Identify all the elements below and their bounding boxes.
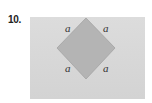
side-label-top-right: a xyxy=(103,23,109,34)
diamond-shape xyxy=(30,17,145,99)
side-label-top-left: a xyxy=(65,23,71,34)
side-label-bottom-right: a xyxy=(103,63,109,74)
problem-number: 10. xyxy=(8,14,21,25)
side-label-bottom-left: a xyxy=(65,63,71,74)
diagram-figure: a a a a xyxy=(30,17,145,99)
